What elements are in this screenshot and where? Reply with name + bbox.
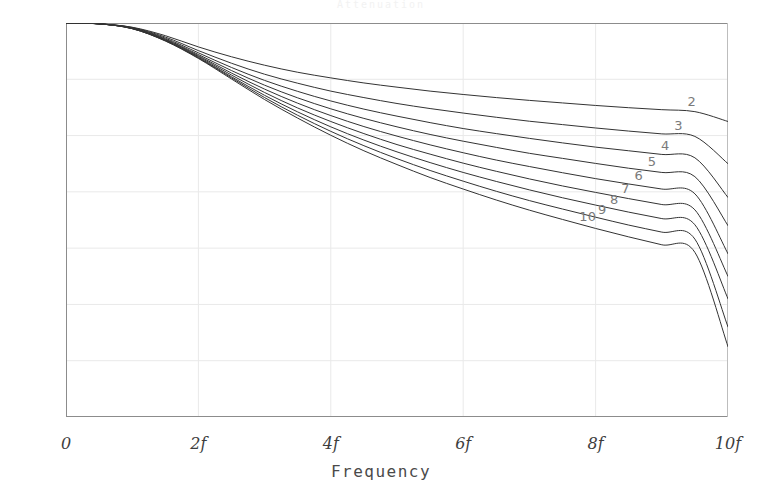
attenuation-chart-figure: Attenuation 0-10-20-30-40-50-60-70-80-90…: [0, 0, 762, 492]
plot-area: [66, 23, 728, 417]
x-tick-label: 10f: [715, 434, 741, 453]
plot-svg: [66, 23, 728, 417]
x-tick-label: 0: [61, 434, 71, 453]
x-axis-title: Frequency: [0, 462, 762, 481]
x-tick-label: 8f: [588, 434, 604, 453]
x-tick-label: 6f: [455, 434, 471, 453]
y-axis: 0-10-20-30-40-50-60-70-80-90-100-110-120…: [0, 0, 66, 492]
chart-title-strip: Attenuation: [0, 0, 762, 9]
x-tick-label: 2f: [190, 434, 206, 453]
x-tick-label: 4f: [323, 434, 339, 453]
